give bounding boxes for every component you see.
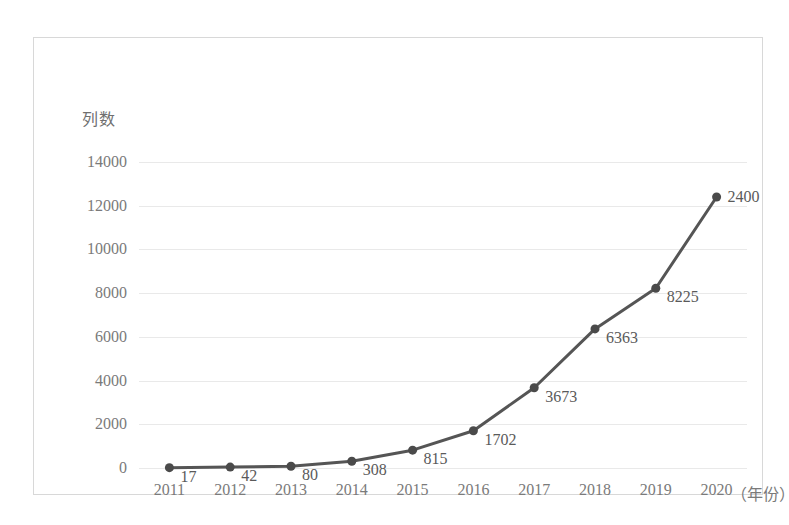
x-axis-tick-label: 2016 bbox=[457, 481, 489, 499]
data-point-label: 8225 bbox=[667, 288, 699, 306]
data-point-marker bbox=[226, 463, 235, 472]
y-axis-tick-label: 12000 bbox=[69, 197, 139, 215]
y-axis-tick-label: 4000 bbox=[69, 372, 139, 390]
plot-area: 17428030881517023673636382252400 bbox=[139, 162, 747, 468]
chart-frame: 列数 17428030881517023673636382252400 0200… bbox=[33, 37, 763, 495]
x-axis-tick-label: 2018 bbox=[579, 481, 611, 499]
y-axis-tick-label: 8000 bbox=[69, 284, 139, 302]
data-point-marker bbox=[530, 383, 539, 392]
line-series bbox=[139, 162, 747, 468]
data-point-marker bbox=[591, 324, 600, 333]
x-axis-tick-label: 2019 bbox=[640, 481, 672, 499]
y-axis-tick-label: 6000 bbox=[69, 328, 139, 346]
x-axis-title: （年份） bbox=[731, 481, 789, 505]
data-point-label: 1702 bbox=[484, 431, 516, 449]
y-axis-tick-label: 2000 bbox=[69, 415, 139, 433]
x-axis-tick-label: 2017 bbox=[518, 481, 550, 499]
x-axis-tick-label: 2012 bbox=[214, 481, 246, 499]
data-point-label: 2400 bbox=[728, 188, 760, 206]
x-axis-tick-label: 2014 bbox=[336, 481, 368, 499]
y-axis-title: 列数 bbox=[82, 106, 116, 130]
data-point-marker bbox=[712, 192, 721, 201]
x-axis-tick-label: 2020 bbox=[701, 481, 733, 499]
data-point-marker bbox=[469, 426, 478, 435]
data-point-label: 308 bbox=[363, 461, 387, 479]
data-point-marker bbox=[165, 463, 174, 472]
y-axis-tick-label: 14000 bbox=[69, 153, 139, 171]
x-axis-tick-labels: 2011201220132014201520162017201820192020 bbox=[139, 481, 747, 505]
data-point-label: 815 bbox=[424, 450, 448, 468]
data-point-label: 3673 bbox=[545, 388, 577, 406]
data-point-label: 6363 bbox=[606, 329, 638, 347]
data-point-marker bbox=[408, 446, 417, 455]
data-point-marker bbox=[651, 284, 660, 293]
x-axis-tick-label: 2011 bbox=[154, 481, 185, 499]
data-point-marker bbox=[347, 457, 356, 466]
data-point-marker bbox=[287, 462, 296, 471]
y-axis-tick-label: 0 bbox=[69, 459, 139, 477]
x-axis-tick-label: 2015 bbox=[397, 481, 429, 499]
x-axis-tick-label: 2013 bbox=[275, 481, 307, 499]
y-axis-tick-label: 10000 bbox=[69, 240, 139, 258]
